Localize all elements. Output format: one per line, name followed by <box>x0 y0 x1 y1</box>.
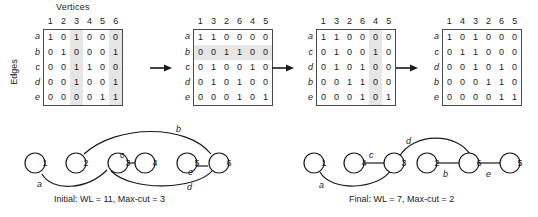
matrix-column-header: 3 <box>70 14 83 29</box>
matrix-cell: 0 <box>233 29 246 45</box>
matrix-step2-table: 132645a110000b001100c010010d010100e00010… <box>178 14 273 106</box>
matrix-cell: 1 <box>482 75 495 90</box>
graph-final-caption: Final: WL = 7, Max-cut = 2 <box>349 194 454 204</box>
matrix-column-header: 4 <box>83 14 96 29</box>
matrix-cell: 0 <box>469 90 482 106</box>
matrix-cell: 0 <box>456 75 469 90</box>
node-label-2: 2 <box>76 158 96 168</box>
matrix-row: c010010 <box>178 60 273 75</box>
matrix-cell: 0 <box>456 90 469 106</box>
matrix-cell: 0 <box>330 75 343 90</box>
matrix-cell: 1 <box>233 75 246 90</box>
edge-label-a: a <box>319 180 324 190</box>
matrix-cell: 0 <box>508 45 522 60</box>
matrix-cell: 0 <box>57 90 70 106</box>
matrix-cell: 1 <box>356 60 369 75</box>
matrix-row: d010100 <box>301 60 396 75</box>
matrix-column-header: 6 <box>233 14 246 29</box>
matrix-cell: 1 <box>495 90 508 106</box>
matrix-column-header: 2 <box>57 14 70 29</box>
matrix-cell: 0 <box>482 45 495 60</box>
matrix-column-header: 2 <box>482 14 495 29</box>
matrix-row-header: c <box>178 60 194 75</box>
matrix-final-table: 143265a101000c011000d001010b000110e00001… <box>427 14 522 106</box>
matrix-cell: 1 <box>70 75 83 90</box>
matrix-column-header: 4 <box>246 14 259 29</box>
matrix-cell: 0 <box>246 29 259 45</box>
matrix-column-header: 3 <box>469 14 482 29</box>
matrix-cell: 1 <box>194 29 208 45</box>
matrix-cell: 1 <box>70 29 83 45</box>
matrix-row: b001100 <box>301 75 396 90</box>
matrix-row-header: a <box>178 29 194 45</box>
graph-initial: 1 2 3 4 5 6 a b c d e Initial: WL = 11, … <box>12 118 260 217</box>
edge-label-e: e <box>486 169 491 179</box>
matrix-row-header: e <box>28 90 44 106</box>
matrix-cell: 1 <box>469 45 482 60</box>
matrix-row: d010100 <box>178 75 273 90</box>
matrix-column-header: 1 <box>443 14 457 29</box>
matrix-row: a110000 <box>301 29 396 45</box>
matrix-cell: 1 <box>317 29 331 45</box>
matrix-row: e000011 <box>28 90 123 106</box>
matrix-row-header: d <box>301 60 317 75</box>
matrix-column-header: 5 <box>508 14 522 29</box>
matrix-column-header: 6 <box>356 14 369 29</box>
matrix-cell: 0 <box>482 60 495 75</box>
matrix-cell: 1 <box>207 29 220 45</box>
matrix-cell: 0 <box>469 75 482 90</box>
edge-label-b: b <box>176 124 181 134</box>
node-label-4: 4 <box>145 158 165 168</box>
matrix-cell: 0 <box>109 60 123 75</box>
matrix-cell: 0 <box>443 75 457 90</box>
matrix-column-header: 3 <box>330 14 343 29</box>
matrix-row: b001100 <box>178 45 273 60</box>
matrix-cell: 1 <box>109 45 123 60</box>
node-label-5: 5 <box>510 158 530 168</box>
matrix-cell: 1 <box>330 60 343 75</box>
matrix-cell: 0 <box>194 90 208 106</box>
matrix-row: e000101 <box>301 90 396 106</box>
matrix-cell: 0 <box>259 60 273 75</box>
matrix-cell: 0 <box>330 90 343 106</box>
matrix-column-header: 1 <box>194 14 208 29</box>
matrix-cell: 0 <box>369 75 382 90</box>
matrix-cell: 0 <box>194 45 208 60</box>
matrix-cell: 0 <box>96 75 109 90</box>
matrix-cell: 0 <box>220 90 233 106</box>
matrix-cell: 1 <box>233 45 246 60</box>
matrix-cell: 0 <box>369 60 382 75</box>
arrow-1-icon <box>150 62 172 74</box>
matrix-row-header: e <box>301 90 317 106</box>
matrix-column-header-row: 143265 <box>427 14 522 29</box>
matrix-row: e000011 <box>427 90 522 106</box>
matrix-cell: 0 <box>443 60 457 75</box>
matrix-cell: 0 <box>207 90 220 106</box>
matrix-cell: 1 <box>96 90 109 106</box>
matrix-row-header: a <box>28 29 44 45</box>
matrix-step3-table: 132645a110000c010010d010100b001100e00010… <box>301 14 396 106</box>
matrix-row: d001001 <box>28 75 123 90</box>
matrix-row: b010001 <box>28 45 123 60</box>
matrix-cell: 0 <box>443 90 457 106</box>
matrix-row-header: b <box>28 45 44 60</box>
matrices-row: Vertices Edges 123456a101000b010001c0011… <box>0 0 538 122</box>
matrix-cell: 0 <box>194 60 208 75</box>
matrix-cell: 0 <box>44 60 58 75</box>
arrow-2-icon <box>272 62 294 74</box>
matrix-row-header: c <box>28 60 44 75</box>
node-label-1: 1 <box>35 158 55 168</box>
matrix-column-header-row: 132645 <box>178 14 273 29</box>
matrix-column-header-row: 132645 <box>301 14 396 29</box>
matrix-cell: 0 <box>508 60 522 75</box>
matrix-cell: 1 <box>469 60 482 75</box>
matrix-cell: 0 <box>495 45 508 60</box>
node-label-6: 6 <box>219 158 239 168</box>
matrix-cell: 0 <box>317 60 331 75</box>
matrix-column-header: 6 <box>495 14 508 29</box>
matrix-cell: 1 <box>57 45 70 60</box>
matrix-cell: 0 <box>57 29 70 45</box>
matrix-cell: 0 <box>207 45 220 60</box>
matrix-cell: 0 <box>356 45 369 60</box>
matrix-cell: 0 <box>96 45 109 60</box>
